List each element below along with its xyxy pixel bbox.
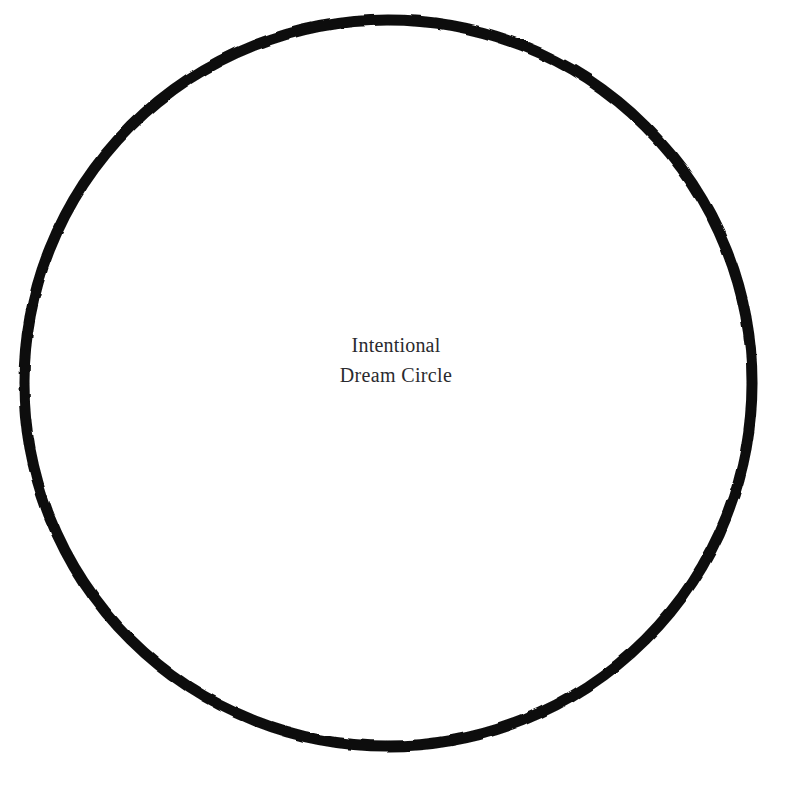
- circle-label-line-2: Dream Circle: [0, 360, 792, 390]
- circle-svg: [0, 0, 792, 788]
- circle-label-line-1: Intentional: [0, 330, 792, 360]
- artwork-canvas: Intentional Dream Circle: [0, 0, 792, 788]
- circle-figure: [0, 0, 792, 788]
- circle-label: Intentional Dream Circle: [0, 330, 792, 390]
